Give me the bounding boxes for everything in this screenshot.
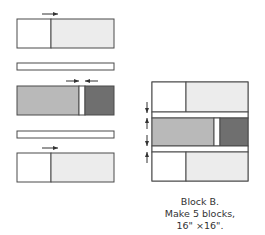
caption-title: Block B. (150, 196, 250, 208)
white-piece (17, 19, 51, 48)
sashing-strip (152, 112, 248, 118)
medium-piece (152, 118, 214, 146)
white-piece (152, 82, 186, 112)
light-piece (186, 152, 248, 181)
unit-bottom (17, 148, 114, 182)
sashing-strip (152, 146, 248, 152)
sashing-strip-1 (17, 63, 114, 70)
medium-piece (17, 86, 79, 115)
caption-size: 16" ×16". (150, 220, 250, 232)
dark-piece (220, 118, 248, 146)
light-piece (186, 82, 248, 112)
white-piece (152, 152, 186, 181)
unit-top (17, 14, 114, 48)
dark-piece (85, 86, 114, 115)
block-caption: Block B. Make 5 blocks, 16" ×16". (150, 196, 250, 232)
sashing-strip-2 (17, 131, 114, 138)
light-piece (51, 153, 114, 182)
white-narrow-piece (214, 118, 220, 146)
white-narrow-piece (79, 86, 85, 115)
white-piece (17, 153, 51, 182)
caption-quantity: Make 5 blocks, (150, 208, 250, 220)
light-piece (51, 19, 114, 48)
assembled-block (147, 82, 248, 181)
unit-middle (17, 81, 114, 115)
